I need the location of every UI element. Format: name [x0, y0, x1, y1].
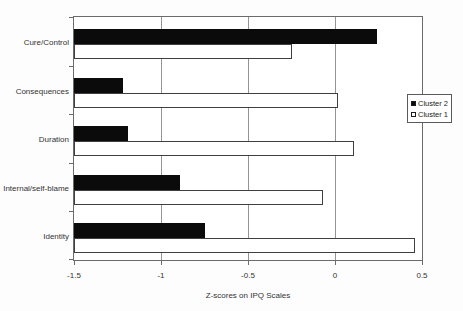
- category-axis-tick: [69, 66, 74, 67]
- category-band-duration: [74, 114, 422, 163]
- category-label-consequences: Consequences: [0, 87, 69, 97]
- legend: Cluster 2Cluster 1: [407, 94, 452, 123]
- category-label-internal-self-blame: Internal/self-blame: [0, 184, 69, 194]
- category-band-internal-self-blame: [74, 163, 422, 212]
- category-label-identity: Identity: [0, 232, 69, 242]
- bar-internal-self-blame-cluster-2: [74, 175, 180, 190]
- category-label-cure-control: Cure/Control: [0, 38, 69, 48]
- x-axis-title: Z-scores on IPQ Scales: [73, 291, 423, 300]
- bar-internal-self-blame-cluster-1: [74, 190, 323, 205]
- bar-chart-figure: Cure/ControlConsequencesDurationInternal…: [0, 0, 463, 311]
- bar-cure-control-cluster-1: [74, 44, 292, 59]
- legend-label-cluster-2: Cluster 2: [418, 99, 448, 108]
- x-axis-tick-label--1: -1: [141, 271, 181, 280]
- x-axis-tick--1: [161, 261, 162, 265]
- legend-swatch-cluster-2-icon: [411, 101, 416, 106]
- bar-consequences-cluster-1: [74, 93, 338, 108]
- x-axis-tick-label-0.5: 0.5: [402, 271, 442, 280]
- x-axis-tick--1.5: [74, 261, 75, 265]
- category-axis-tick: [69, 163, 74, 164]
- legend-entry-cluster-1: Cluster 1: [410, 109, 448, 119]
- legend-entry-cluster-2: Cluster 2: [410, 98, 448, 108]
- category-band-identity: [74, 211, 422, 260]
- legend-swatch-cluster-1-icon: [411, 112, 416, 117]
- bar-cure-control-cluster-2: [74, 29, 377, 44]
- category-axis-tick: [69, 114, 74, 115]
- x-axis-tick-0: [335, 261, 336, 265]
- category-band-cure-control: [74, 17, 422, 66]
- plot-area: [73, 16, 423, 261]
- x-axis-tick-label--1.5: -1.5: [54, 271, 94, 280]
- category-axis-tick: [69, 17, 74, 18]
- bar-identity-cluster-2: [74, 223, 205, 238]
- category-band-consequences: [74, 66, 422, 115]
- legend-label-cluster-1: Cluster 1: [418, 110, 448, 119]
- bar-identity-cluster-1: [74, 238, 415, 253]
- x-axis-tick--0.5: [248, 261, 249, 265]
- bar-duration-cluster-2: [74, 126, 128, 141]
- category-axis-tick: [69, 259, 74, 260]
- x-axis-tick-label--0.5: -0.5: [228, 271, 268, 280]
- bar-duration-cluster-1: [74, 141, 354, 156]
- x-axis-tick-label-0: 0: [315, 271, 355, 280]
- x-axis-tick-0.5: [422, 261, 423, 265]
- bar-consequences-cluster-2: [74, 78, 123, 93]
- category-axis-tick: [69, 211, 74, 212]
- category-label-duration: Duration: [0, 135, 69, 145]
